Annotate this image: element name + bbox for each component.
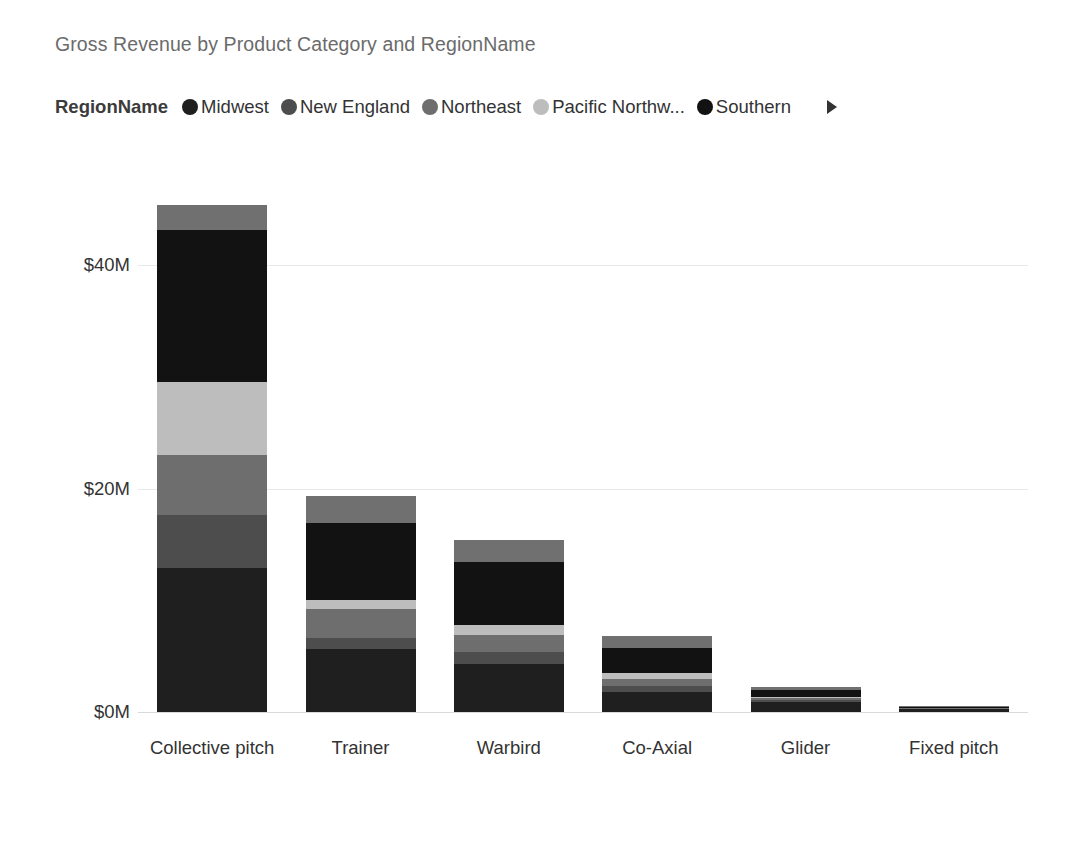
bar-segment[interactable] (751, 702, 861, 712)
x-axis-line (138, 712, 1028, 713)
bar-segment[interactable] (899, 708, 1009, 709)
legend-item-label: New England (300, 96, 410, 118)
bar-segment[interactable] (454, 652, 564, 664)
bar-stack[interactable] (306, 496, 416, 712)
bar-segment[interactable] (306, 600, 416, 609)
bar-stack[interactable] (454, 540, 564, 712)
bar-group (899, 0, 1009, 712)
x-axis-tick-label: Warbird (435, 736, 583, 761)
bar-segment[interactable] (306, 496, 416, 523)
bar-segment[interactable] (157, 230, 267, 382)
legend-item-label: Midwest (201, 96, 269, 118)
x-axis-tick-label: Glider (731, 736, 879, 761)
bars-layer (0, 0, 1068, 842)
bar-segment[interactable] (454, 625, 564, 635)
bar-segment[interactable] (454, 664, 564, 712)
legend-item-label: Pacific Northw... (552, 96, 685, 118)
legend-swatch-icon (533, 99, 549, 115)
bar-stack[interactable] (157, 205, 267, 712)
bar-segment[interactable] (899, 709, 1009, 710)
bar-segment[interactable] (899, 707, 1009, 708)
legend-item-northeast[interactable]: Northeast (422, 96, 521, 118)
bar-segment[interactable] (899, 706, 1009, 707)
y-axis-tick-label: $40M (2, 254, 130, 276)
bar-segment[interactable] (602, 673, 712, 678)
bar-segment[interactable] (602, 686, 712, 692)
gridline (138, 265, 1028, 266)
bar-segment[interactable] (602, 648, 712, 674)
bar-segment[interactable] (751, 690, 861, 697)
legend-swatch-icon (182, 99, 198, 115)
legend-item-list: MidwestNew EnglandNortheastPacific North… (182, 96, 803, 118)
bar-segment[interactable] (454, 562, 564, 625)
legend-swatch-icon (422, 99, 438, 115)
bar-segment[interactable] (751, 700, 861, 702)
bar-stack[interactable] (751, 687, 861, 712)
bar-segment[interactable] (157, 568, 267, 712)
bar-segment[interactable] (602, 679, 712, 687)
bar-segment[interactable] (602, 636, 712, 648)
chevron-right-icon[interactable] (821, 96, 843, 118)
bar-segment[interactable] (306, 649, 416, 712)
y-axis-tick-label: $0M (2, 701, 130, 723)
legend-item-new-england[interactable]: New England (281, 96, 410, 118)
gridline (138, 489, 1028, 490)
bar-segment[interactable] (602, 692, 712, 712)
legend-item-southern[interactable]: Southern (697, 96, 791, 118)
page-title: Gross Revenue by Product Category and Re… (55, 33, 536, 56)
legend-swatch-icon (281, 99, 297, 115)
legend-title: RegionName (55, 96, 168, 118)
bar-segment[interactable] (157, 455, 267, 515)
legend-swatch-icon (697, 99, 713, 115)
bar-segment[interactable] (751, 698, 861, 700)
legend-item-midwest[interactable]: Midwest (182, 96, 269, 118)
bar-segment[interactable] (899, 709, 1009, 712)
y-axis-tick-label: $20M (2, 478, 130, 500)
plot-area: $0M$20M$40M Collective pitchTrainerWarbi… (0, 0, 1068, 842)
y-axis: $0M$20M$40M (0, 0, 130, 842)
chart-legend: RegionName MidwestNew EnglandNortheastPa… (55, 92, 843, 122)
legend-item-pacific-northw[interactable]: Pacific Northw... (533, 96, 685, 118)
legend-item-label: Northeast (441, 96, 521, 118)
bar-segment[interactable] (751, 697, 861, 698)
bar-segment[interactable] (454, 635, 564, 652)
bar-segment[interactable] (306, 523, 416, 600)
x-axis-tick-label: Trainer (286, 736, 434, 761)
bar-segment[interactable] (306, 609, 416, 638)
x-axis-tick-label: Co-Axial (583, 736, 731, 761)
bar-segment[interactable] (751, 687, 861, 690)
bar-segment[interactable] (157, 205, 267, 231)
legend-item-label: Southern (716, 96, 791, 118)
bar-stack[interactable] (602, 636, 712, 712)
bar-segment[interactable] (157, 382, 267, 455)
x-axis-tick-label: Collective pitch (138, 736, 286, 761)
x-axis-tick-label: Fixed pitch (880, 736, 1028, 761)
bar-segment[interactable] (157, 515, 267, 568)
bar-segment[interactable] (454, 540, 564, 562)
bar-segment[interactable] (306, 638, 416, 649)
bar-stack[interactable] (899, 706, 1009, 712)
chart-visual-container: Gross Revenue by Product Category and Re… (0, 0, 1068, 842)
